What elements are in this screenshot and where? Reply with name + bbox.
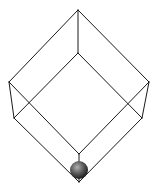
cube-edges (9, 10, 149, 182)
cube-edge (78, 53, 142, 118)
cube-edge (14, 53, 78, 118)
cube-edge (14, 118, 79, 182)
sphere-ball (70, 161, 88, 179)
cube-canvas (0, 0, 156, 194)
cube-edge (79, 82, 149, 154)
cube-diagram (0, 0, 156, 194)
cube-edge (142, 82, 149, 118)
cube-edge (79, 118, 142, 182)
cube-edge (9, 10, 78, 82)
cube-edge (9, 82, 79, 154)
cube-edge (78, 10, 149, 82)
cube-edge (9, 82, 14, 118)
